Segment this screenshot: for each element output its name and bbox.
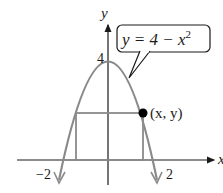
parabola-rectangle-diagram: y = 4 − x2 y x 4 −2 2 (x, y) (0, 0, 223, 193)
inscribed-rectangle (76, 113, 143, 160)
tick-label-x-2: 2 (166, 167, 173, 182)
x-axis-label: x (217, 151, 223, 167)
tick-label-x-neg2: −2 (36, 167, 51, 182)
tick-label-y-4: 4 (97, 51, 104, 66)
point-marker (139, 109, 148, 118)
y-axis-label: y (99, 5, 108, 21)
point-label: (x, y) (150, 105, 183, 122)
equation-label: y = 4 − x2 (120, 28, 191, 49)
callout-pointer (129, 51, 150, 78)
